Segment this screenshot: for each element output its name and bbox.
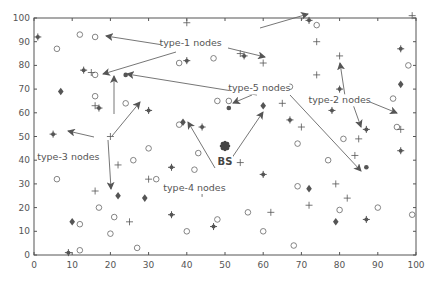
type-1-node [211, 55, 217, 61]
x-tick-label: 80 [334, 260, 346, 270]
type-2-node [237, 159, 244, 166]
type-2-node [183, 19, 190, 26]
y-tick-label: 10 [19, 226, 31, 236]
type-3-node-core [147, 108, 151, 112]
type-1-node [192, 167, 198, 173]
type-3-node-core [307, 18, 311, 22]
type-2-node [115, 161, 122, 168]
x-tick-label: 20 [105, 260, 117, 270]
type-1-node [123, 101, 129, 107]
type-2-node [279, 100, 286, 107]
type-3-node-core [261, 172, 265, 176]
type-1-node [390, 96, 396, 102]
x-tick-label: 90 [372, 260, 384, 270]
type-2-node [298, 124, 305, 131]
type-2-node [92, 188, 99, 195]
type-4-node [58, 88, 64, 96]
type-3-node-core [364, 217, 368, 221]
type-1-node [92, 93, 98, 99]
type-3-node-core [288, 118, 292, 122]
type-1-node [295, 183, 301, 189]
type-5-label: type-5 nodes [228, 82, 290, 93]
type-4-node [306, 185, 312, 193]
type-1-node [184, 229, 190, 235]
type-4-label: type-4 nodes [163, 182, 225, 193]
type-1-node [409, 212, 415, 218]
x-tick-label: 0 [31, 260, 37, 270]
annotation-arrow [340, 63, 345, 96]
annotation-arrow [103, 52, 176, 74]
y-tick-label: 40 [19, 155, 31, 165]
type-5-node [123, 73, 128, 78]
type-2-node [260, 60, 267, 67]
x-tick-label: 10 [66, 260, 78, 270]
type-3-node-core [36, 35, 40, 39]
type-1-node [337, 207, 343, 213]
type-1-node [176, 60, 182, 66]
y-tick-label: 60 [19, 108, 31, 118]
y-tick-label: 0 [24, 250, 30, 260]
type-5-node [227, 106, 232, 111]
y-tick-label: 30 [19, 179, 31, 189]
base-station-icon [220, 141, 231, 152]
y-tick-label: 80 [19, 60, 31, 70]
x-tick-label: 60 [257, 260, 269, 270]
annotation-arrow [112, 102, 140, 136]
type-4-node [333, 218, 339, 226]
type-1-node [153, 176, 159, 182]
type-3-node-core [82, 68, 86, 72]
type-2-node [145, 176, 152, 183]
type-1-node [226, 98, 232, 104]
type-1-node [54, 176, 60, 182]
type-2-node [267, 209, 274, 216]
type-1-node [215, 98, 221, 104]
type-2-label: type-2 nodes [308, 94, 370, 105]
annotation-labels: type-1 nodestype-2 nodestype-3 nodestype… [37, 37, 371, 194]
type-1-node [77, 247, 83, 253]
y-tick-label: 90 [19, 37, 31, 47]
type-1-node [245, 210, 251, 216]
y-tick-label: 70 [19, 84, 31, 94]
y-tick-label: 20 [19, 203, 31, 213]
y-tick-label: 100 [13, 13, 30, 23]
type-1-node [92, 72, 98, 78]
bs-core [221, 142, 229, 150]
type-1-node [195, 150, 201, 156]
type-2-node [332, 180, 339, 187]
type-1-node [111, 214, 117, 220]
type-1-node [341, 136, 347, 142]
type-2-node [351, 152, 358, 159]
x-tick-label: 30 [143, 260, 155, 270]
type-1-node [325, 157, 331, 163]
type-3-node-core [212, 225, 216, 229]
annotation-arrow [233, 95, 252, 103]
type-3-node-core [399, 47, 403, 51]
type-3-node-core [51, 132, 55, 136]
y-tick-label: 50 [19, 132, 31, 142]
type-4-node [142, 194, 148, 202]
type-1-node [54, 46, 60, 52]
type-1-node [134, 245, 140, 251]
type-2-node [126, 218, 133, 225]
x-tick-label: 40 [181, 260, 193, 270]
type-1-node [92, 34, 98, 40]
x-tick-label: 50 [219, 260, 231, 270]
type-4-node [398, 81, 404, 89]
type-2-node [344, 195, 351, 202]
type-4-node [69, 218, 75, 226]
scatter-chart: 0102030405060708090100010203040506070809… [0, 0, 438, 284]
type-1-node [394, 124, 400, 130]
x-tick-label: 70 [296, 260, 308, 270]
type-1-node [295, 141, 301, 147]
annotation-arrow [260, 14, 308, 28]
type-1-node [146, 146, 152, 152]
data-points [34, 12, 415, 256]
type-1-node [108, 231, 114, 237]
type-1-node [77, 221, 83, 227]
type-1-node [215, 217, 221, 223]
type-3-node-core [66, 251, 70, 255]
type-3-node-core [338, 87, 342, 91]
type-4-node [115, 192, 121, 200]
type-1-label: type-1 nodes [159, 37, 221, 48]
type-1-node [406, 63, 412, 69]
